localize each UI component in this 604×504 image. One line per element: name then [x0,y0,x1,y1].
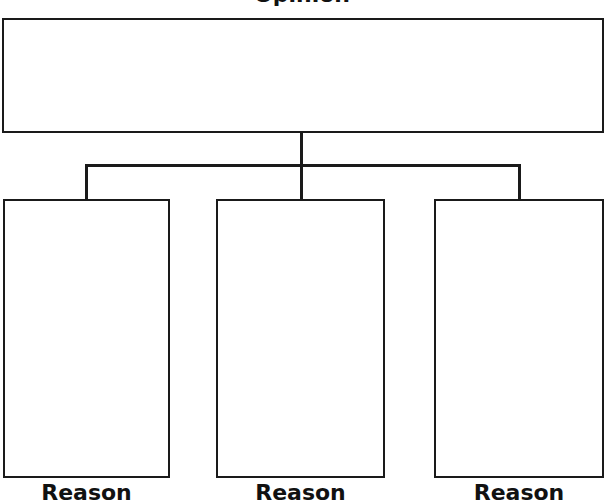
reason-box-1[interactable] [3,199,170,478]
reason-box-3[interactable] [434,199,604,478]
reason-label-2: Reason [216,482,385,504]
reason-box-2[interactable] [216,199,385,478]
connector-right [518,164,521,200]
reason-label-3: Reason [434,482,604,504]
connector-left [85,164,88,200]
connector-horizontal [85,164,521,167]
connector-trunk [300,132,303,166]
connector-middle [300,164,303,200]
opinion-box[interactable] [2,18,604,133]
top-label: Opinion [0,0,604,6]
reason-label-1: Reason [3,482,170,504]
